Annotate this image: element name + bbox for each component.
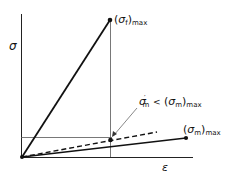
y-axis-label: σ [9, 40, 17, 52]
fiber-max-point [108, 18, 113, 23]
matrix-line [22, 138, 186, 157]
stress-strain-diagram [0, 0, 236, 181]
matrix-prime-label: σ′m < (σm)max [139, 95, 202, 109]
fiber-max-label: (σf)max [114, 14, 147, 27]
suffix: max [186, 101, 201, 109]
leader-line [114, 108, 137, 135]
matrix-max-label: (σm)max [183, 124, 221, 137]
suffix: max [132, 19, 147, 27]
origin-point [20, 155, 24, 159]
x-axis-label: ε [162, 162, 168, 173]
suffix: max [205, 129, 220, 137]
subscript: m [143, 101, 150, 109]
less-than: < [153, 97, 161, 107]
fiber-line [22, 20, 110, 157]
matrix-prime-point [108, 138, 113, 143]
